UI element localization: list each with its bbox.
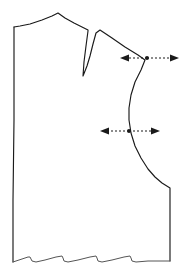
canvas-background (0, 0, 186, 275)
marker-center-dot (145, 56, 149, 60)
marker-center-dot (127, 129, 131, 133)
pattern-figure (0, 0, 186, 275)
pattern-diagram-svg (0, 0, 186, 275)
